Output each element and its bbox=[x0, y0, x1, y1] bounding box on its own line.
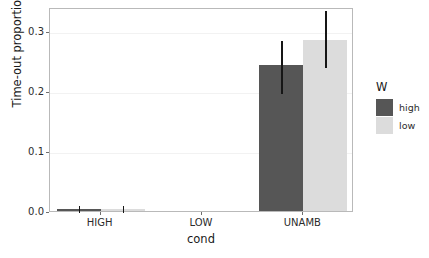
y-axis-tick-labels: 0.00.10.20.3 bbox=[18, 0, 44, 258]
y-tick-label: 0.3 bbox=[18, 27, 44, 37]
y-tick-mark bbox=[46, 92, 49, 93]
y-tick-mark bbox=[46, 32, 49, 33]
x-tick-label: LOW bbox=[190, 217, 213, 228]
legend-items: highlow bbox=[376, 99, 429, 135]
y-tick-label: 0.0 bbox=[18, 207, 44, 217]
bar-chart-figure: Time-out proportion 0.00.10.20.3 HIGHLOW… bbox=[0, 0, 429, 258]
y-tick-mark bbox=[46, 212, 49, 213]
chart-title-cropped bbox=[0, 0, 429, 5]
legend: W highlow bbox=[376, 82, 429, 135]
legend-title: W bbox=[376, 82, 429, 94]
error-bar-unamb-high bbox=[281, 41, 282, 94]
x-axis-title: cond bbox=[49, 232, 353, 246]
legend-key-low bbox=[376, 117, 393, 134]
legend-item-low[interactable]: low bbox=[376, 117, 429, 135]
error-bar-high-low bbox=[123, 206, 124, 213]
plot-panel-clip bbox=[50, 9, 352, 211]
x-tick-mark bbox=[201, 212, 202, 215]
x-tick-mark bbox=[302, 212, 303, 215]
legend-label-low: low bbox=[399, 121, 415, 131]
x-tick-label: UNAMB bbox=[284, 217, 321, 228]
error-bar-unamb-low bbox=[325, 11, 326, 68]
error-bar-high-high bbox=[79, 206, 80, 213]
x-tick-mark bbox=[100, 212, 101, 215]
x-tick-label: HIGH bbox=[87, 217, 113, 228]
legend-item-high[interactable]: high bbox=[376, 99, 429, 117]
legend-label-high: high bbox=[399, 103, 420, 113]
gridline bbox=[50, 33, 352, 34]
y-tick-label: 0.1 bbox=[18, 147, 44, 157]
legend-key-high bbox=[376, 99, 393, 116]
plot-panel bbox=[49, 8, 353, 212]
y-tick-label: 0.2 bbox=[18, 87, 44, 97]
y-tick-mark bbox=[46, 152, 49, 153]
